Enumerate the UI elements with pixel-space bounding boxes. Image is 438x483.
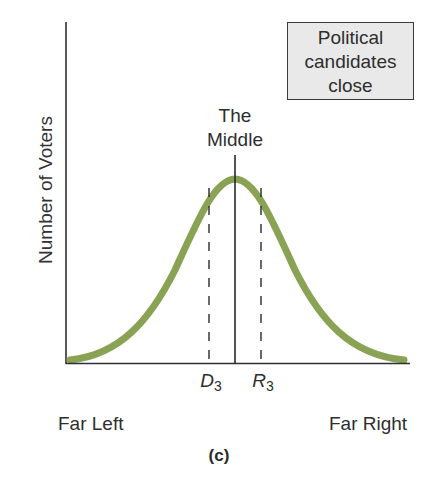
middle-label-line: The	[207, 104, 263, 128]
marker-letter: R	[252, 370, 266, 391]
median-voter-figure: Number of Voters Political candidates cl…	[0, 0, 438, 483]
middle-label: The Middle	[207, 104, 263, 152]
far-right-label: Far Right	[329, 413, 407, 435]
marker-letter: D	[200, 370, 214, 391]
callout-line: close	[288, 74, 413, 98]
callout-box: Political candidates close	[287, 22, 414, 100]
y-axis-label: Number of Voters	[35, 116, 57, 264]
callout-line: Political	[288, 26, 413, 50]
panel-label: (c)	[209, 446, 230, 466]
middle-label-line: Middle	[207, 128, 263, 152]
callout-line: candidates	[288, 50, 413, 74]
r3-marker-label: R3	[252, 370, 274, 394]
d3-marker-label: D3	[200, 370, 222, 394]
far-left-label: Far Left	[58, 413, 123, 435]
marker-subscript: 3	[214, 378, 222, 394]
voter-distribution-curve	[70, 179, 404, 360]
marker-subscript: 3	[266, 378, 274, 394]
